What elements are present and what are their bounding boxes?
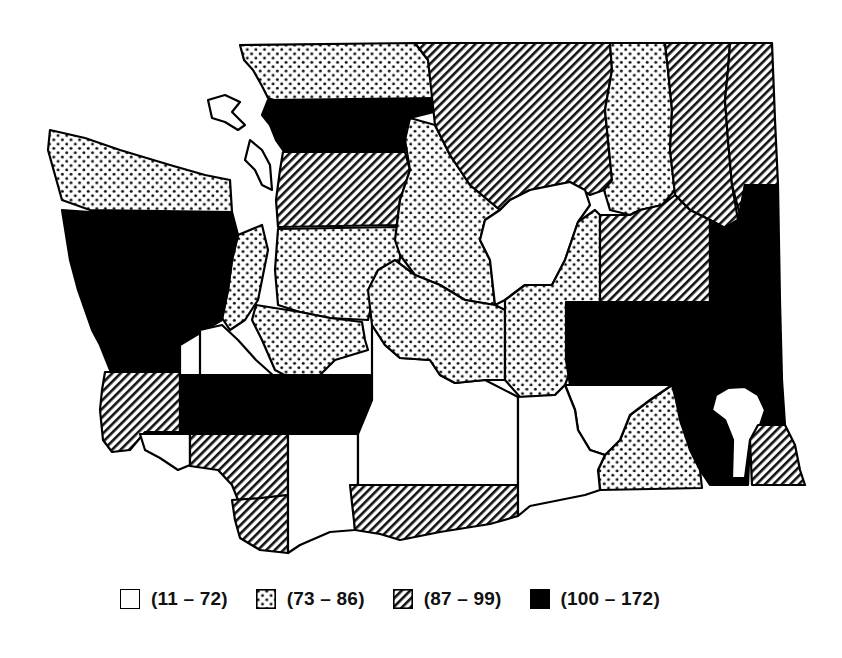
county-skamania [288,434,358,553]
legend-label: (73 – 86) [287,588,365,610]
county-asotin [750,425,805,485]
county-clark [232,495,288,553]
county-snohomish [276,152,410,227]
legend-swatch-dots [256,589,276,609]
legend-label: (100 – 172) [561,588,660,610]
legend-swatch-blank [120,589,140,609]
county-lewis [180,375,372,435]
county-cowlitz [190,434,288,505]
legend-item-100-172: (100 – 172) [530,588,660,610]
county-ferry [604,43,675,215]
county-whatcom [240,43,436,102]
legend-swatch-solid [530,589,550,609]
legend-label: (11 – 72) [151,588,228,610]
map-legend: (11 – 72) (73 – 86) (87 – 99) (100 – 172… [120,588,688,610]
washington-county-map [0,0,842,580]
county-island [245,140,272,190]
legend-item-73-86: (73 – 86) [256,588,365,610]
county-klickitat [350,485,518,540]
county-san-juan [208,95,245,130]
county-wahkiakum [140,434,190,470]
legend-label: (87 – 99) [424,588,502,610]
legend-swatch-hatch [393,589,413,609]
county-clallam [48,130,232,212]
legend-item-11-72: (11 – 72) [120,588,228,610]
legend-item-87-99: (87 – 99) [393,588,502,610]
